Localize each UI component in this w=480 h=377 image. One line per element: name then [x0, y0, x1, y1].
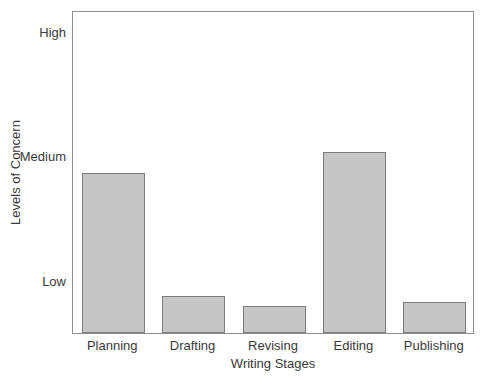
bar-planning [82, 173, 145, 333]
y-tick-label-low: Low [0, 275, 66, 288]
bar-editing [323, 152, 386, 333]
bars-layer [73, 12, 473, 333]
x-tick-label-planning: Planning [72, 338, 152, 354]
x-tick-label-drafting: Drafting [152, 338, 232, 354]
bar-chart-figure: High Medium Low Levels of Concern Planni… [0, 0, 480, 377]
x-tick-label-publishing: Publishing [394, 338, 474, 354]
x-axis-title: Writing Stages [72, 356, 474, 371]
y-axis-title: Levels of Concern [8, 98, 23, 248]
x-tick-label-revising: Revising [233, 338, 313, 354]
bar-publishing [403, 302, 466, 333]
bar-revising [243, 306, 306, 333]
bar-drafting [162, 296, 225, 333]
y-tick-label-high: High [0, 26, 66, 39]
x-tick-label-editing: Editing [313, 338, 393, 354]
plot-area [72, 11, 474, 334]
